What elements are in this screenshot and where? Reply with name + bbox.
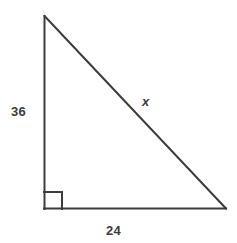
hypotenuse-line — [45, 16, 227, 209]
hypotenuse-label: x — [142, 95, 149, 108]
right-angle-marker-icon — [44, 192, 62, 209]
right-triangle-figure — [0, 0, 237, 243]
vertical-leg-label: 36 — [11, 105, 26, 118]
figure-canvas: 36 24 x — [0, 0, 237, 243]
triangle-outline — [44, 16, 226, 209]
horizontal-leg-label: 24 — [106, 224, 121, 237]
